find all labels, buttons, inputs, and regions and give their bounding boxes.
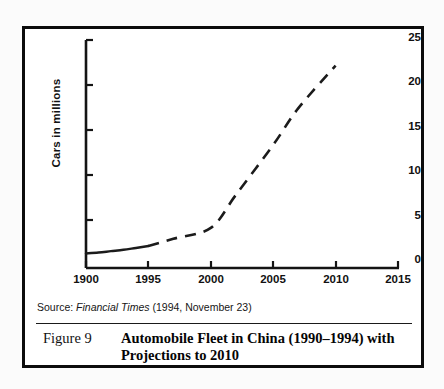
chart-plot-area: Cars in millions 0 5 10 15 20 25	[25, 29, 421, 291]
x-tick-label-1995: 1995	[124, 273, 172, 285]
series-line-projection	[148, 66, 335, 247]
figure-caption-text: Automobile Fleet in China (1990–1994) wi…	[121, 330, 413, 364]
figure-caption: Figure 9 Automobile Fleet in China (1990…	[37, 330, 413, 364]
caption-line-1: Automobile Fleet in China (1990–1994) wi…	[121, 330, 413, 347]
source-publication: Financial Times	[76, 301, 149, 313]
x-tick-label-2005: 2005	[249, 273, 297, 285]
x-tick-label-2000: 2000	[187, 273, 235, 285]
x-tick-label-2010: 2010	[312, 273, 360, 285]
source-divider	[36, 323, 412, 324]
caption-line-2: Projections to 2010	[121, 347, 413, 364]
source-detail: (1994, November 23)	[152, 301, 251, 313]
figure-number: Figure 9	[37, 330, 121, 347]
source-prefix: Source:	[37, 301, 73, 313]
source-line: Source: Financial Times (1994, November …	[37, 301, 409, 313]
figure-border-box: Cars in millions 0 5 10 15 20 25	[22, 26, 424, 368]
figure-page: Cars in millions 0 5 10 15 20 25	[0, 0, 444, 389]
x-tick-label-1990: 1900	[62, 273, 110, 285]
chart-svg	[25, 29, 421, 291]
x-tick-label-2015: 2015	[374, 273, 422, 285]
series-line-actual	[86, 246, 148, 253]
